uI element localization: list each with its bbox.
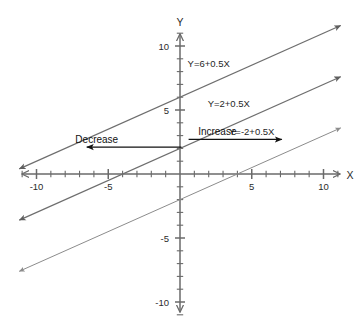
y-axis-label: Y	[176, 16, 183, 28]
annotation-label: Increase	[198, 126, 237, 137]
y-tick-label: 5	[164, 105, 169, 116]
y-tick-label: 10	[158, 41, 169, 52]
x-axis-label: X	[346, 169, 353, 181]
chart-figure: -10-5510105-5-10 Y=6+0.5XY=2+0.5XY=-2+0.…	[0, 0, 363, 325]
coordinate-plane: -10-5510105-5-10 Y=6+0.5XY=2+0.5XY=-2+0.…	[0, 0, 363, 325]
annotation-label: Decrease	[75, 134, 118, 145]
x-tick-label: -10	[30, 181, 44, 192]
y-tick-label: -5	[161, 233, 169, 244]
x-tick-label: -5	[104, 181, 112, 192]
x-tick-label: 5	[249, 181, 254, 192]
y-tick-label: -10	[155, 297, 169, 308]
line-equation-label: Y=2+0.5X	[208, 98, 251, 109]
x-tick-label: 10	[318, 181, 329, 192]
line-equation-label: Y=6+0.5X	[188, 58, 231, 69]
